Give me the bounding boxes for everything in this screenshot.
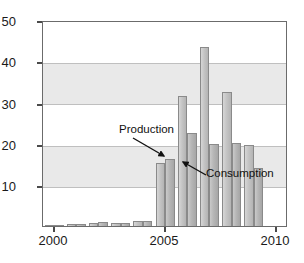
xtick-label-2010: 2010 — [245, 233, 304, 248]
bar-consumption-2000 — [54, 225, 64, 226]
ytick-label-20: 20 — [0, 139, 16, 152]
xtick-mark-2000 — [53, 227, 55, 232]
ytick-label-10: 10 — [0, 180, 16, 193]
bar-production-2009 — [244, 145, 254, 226]
bar-production-2008 — [222, 92, 232, 226]
bar-production-2002 — [89, 223, 99, 226]
xtick-mark-2005 — [164, 227, 166, 232]
bar-consumption-2001 — [76, 224, 86, 226]
ytick-label-30: 30 — [0, 98, 16, 111]
ytick-label-40: 40 — [0, 56, 16, 69]
bar-consumption-2002 — [98, 222, 108, 226]
bar-consumption-2006 — [187, 133, 197, 226]
bar-production-2003 — [111, 223, 121, 226]
bar-production-2000 — [45, 225, 55, 226]
bar-consumption-2008 — [232, 143, 242, 226]
bar-production-2006 — [178, 96, 188, 226]
bar-production-2005 — [156, 163, 166, 226]
bar-consumption-2003 — [121, 223, 131, 226]
bar-consumption-2004 — [143, 221, 153, 226]
bar-production-2007 — [200, 47, 210, 226]
bar-consumption-2007 — [209, 144, 219, 226]
annotation-label-consumption: Consumption — [206, 167, 274, 179]
bar-chart: 50 40 30 20 10 2000 2005 2010 Production… — [0, 0, 304, 263]
xtick-label-2005: 2005 — [134, 233, 194, 248]
annotation-label-production: Production — [119, 123, 174, 135]
xtick-mark-2010 — [275, 227, 277, 232]
bar-production-2004 — [133, 221, 143, 226]
bar-production-2001 — [67, 224, 77, 226]
bar-consumption-2005 — [165, 159, 175, 226]
xtick-label-2000: 2000 — [23, 233, 83, 248]
ytick-label-50: 50 — [0, 15, 16, 28]
